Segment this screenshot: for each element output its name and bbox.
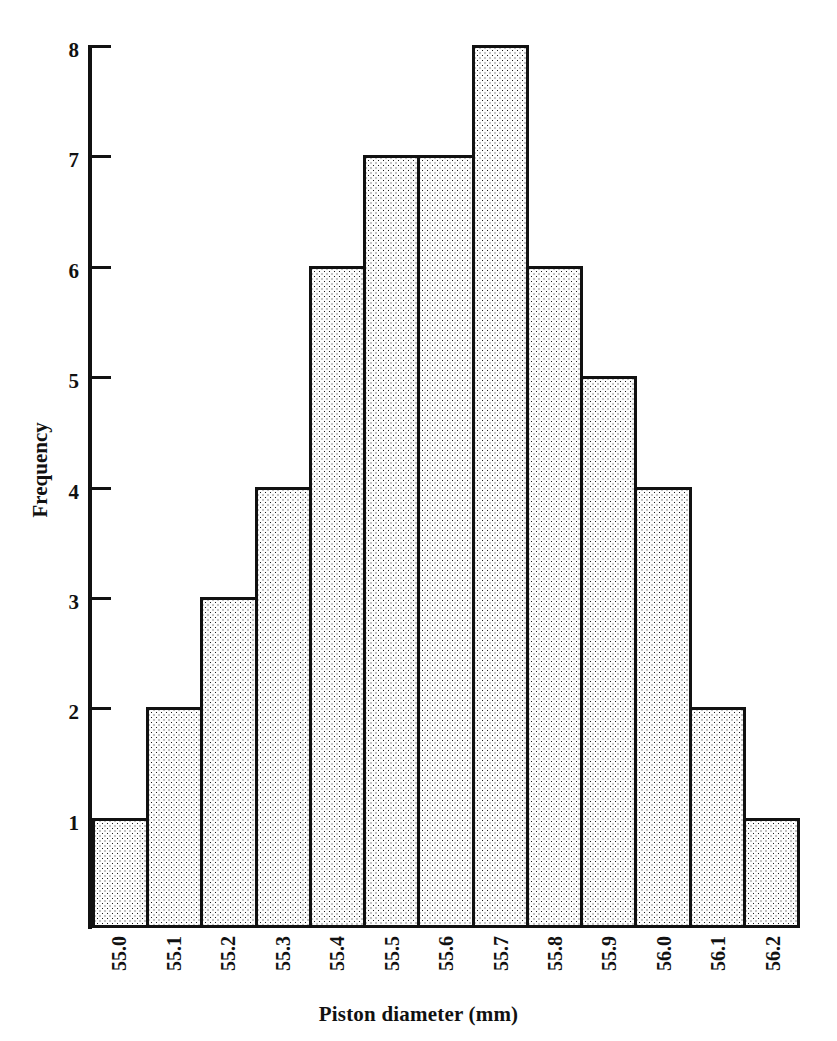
x-axis-tick-label: 55.0 bbox=[109, 936, 129, 971]
histogram-bar bbox=[634, 487, 691, 929]
x-axis-tick-labels: 55.0 55.1 55.2 55.3 55.4 55.5 55.6 55.7 … bbox=[92, 936, 800, 998]
x-axis-tick: 55.6 bbox=[419, 936, 473, 998]
x-axis-tick: 55.2 bbox=[201, 936, 255, 998]
x-axis-tick-label: 56.1 bbox=[708, 936, 728, 971]
plot-area: 8 7 6 5 4 3 2 1 bbox=[92, 45, 800, 928]
y-axis-tick-label-7: 7 bbox=[69, 150, 80, 171]
y-axis-tick-label-4: 4 bbox=[69, 482, 80, 503]
histogram-figure: Frequency 8 7 6 5 4 3 2 1 bbox=[0, 0, 837, 1041]
y-axis-tick-label-6: 6 bbox=[69, 261, 80, 282]
x-axis-tick-label: 55.5 bbox=[382, 936, 402, 971]
histogram-bar bbox=[417, 155, 474, 928]
x-axis-tick-label: 55.9 bbox=[599, 936, 619, 971]
x-axis-tick: 55.9 bbox=[582, 936, 636, 998]
histogram-bar bbox=[309, 266, 366, 928]
x-axis-tick-label: 56.0 bbox=[654, 936, 674, 971]
histogram-bar bbox=[146, 707, 203, 928]
y-axis-tick-label-3: 3 bbox=[69, 592, 80, 613]
x-axis-title: Piston diameter (mm) bbox=[0, 1002, 837, 1027]
x-axis-tick: 55.4 bbox=[310, 936, 364, 998]
histogram-bar bbox=[743, 818, 800, 928]
x-axis-tick-label: 55.8 bbox=[545, 936, 565, 971]
x-axis-tick-label: 56.2 bbox=[763, 936, 783, 971]
histogram-bar bbox=[580, 376, 637, 928]
y-axis-tick-label-8: 8 bbox=[69, 40, 80, 61]
histogram-bar bbox=[255, 487, 312, 929]
x-axis-tick: 56.1 bbox=[691, 936, 745, 998]
y-axis-title: Frequency bbox=[28, 438, 53, 518]
x-axis-tick-label: 55.6 bbox=[436, 936, 456, 971]
x-axis-tick: 55.7 bbox=[473, 936, 527, 998]
x-axis-tick: 55.1 bbox=[146, 936, 200, 998]
y-axis-tick-label-1: 1 bbox=[69, 813, 80, 834]
x-axis-tick-label: 55.1 bbox=[164, 936, 184, 971]
x-axis-tick: 55.8 bbox=[528, 936, 582, 998]
bar-series bbox=[92, 45, 800, 928]
x-axis-tick-label: 55.4 bbox=[327, 936, 347, 971]
histogram-bar bbox=[92, 818, 149, 928]
histogram-bar bbox=[472, 45, 529, 928]
y-axis-tick-label-2: 2 bbox=[69, 702, 80, 723]
x-axis-tick-label: 55.2 bbox=[218, 936, 238, 971]
x-axis-tick: 55.3 bbox=[255, 936, 309, 998]
x-axis-tick: 55.0 bbox=[92, 936, 146, 998]
histogram-bar bbox=[526, 266, 583, 928]
x-axis-tick: 55.5 bbox=[364, 936, 418, 998]
x-axis-tick: 56.0 bbox=[637, 936, 691, 998]
histogram-bar bbox=[689, 707, 746, 928]
x-axis-tick: 56.2 bbox=[746, 936, 800, 998]
y-axis-tick-label-5: 5 bbox=[69, 371, 80, 392]
histogram-bar bbox=[363, 155, 420, 928]
x-axis-tick-label: 55.7 bbox=[491, 936, 511, 971]
histogram-bar bbox=[200, 597, 257, 928]
x-axis-tick-label: 55.3 bbox=[273, 936, 293, 971]
